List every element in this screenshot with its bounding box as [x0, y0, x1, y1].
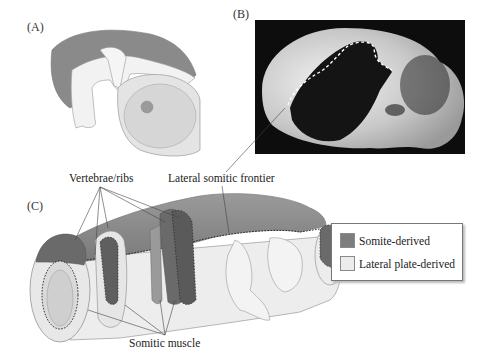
limb-bud-b — [385, 104, 405, 116]
legend-label-lateral: Lateral plate-derived — [359, 258, 455, 270]
legend-item-somite: Somite-derived — [340, 233, 430, 248]
yolk-inner-a — [124, 84, 196, 148]
legend-swatch-lateral — [340, 256, 355, 271]
legend-item-lateral: Lateral plate-derived — [340, 256, 455, 271]
lateral-somitic-frontier-label: Lateral somitic frontier — [168, 172, 275, 184]
legend-swatch-somite — [340, 233, 355, 248]
segment-ring-2 — [95, 231, 127, 327]
legend: Somite-derived Lateral plate-derived — [331, 223, 463, 281]
somitic-muscle-label: Somitic muscle — [129, 337, 200, 349]
panel-b-photo — [255, 20, 465, 154]
head-shadow-b — [400, 55, 450, 115]
yolk-spot-a — [141, 101, 153, 113]
panel-a-embryo — [51, 30, 200, 156]
panel-c-tube — [30, 194, 345, 342]
legend-label-somite: Somite-derived — [359, 235, 430, 247]
vertebrae-ribs-label: Vertebrae/ribs — [69, 172, 134, 184]
segment-ring-1 — [30, 234, 90, 342]
